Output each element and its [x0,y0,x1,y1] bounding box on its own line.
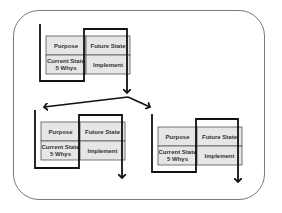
arrow-to-bottom-left [44,97,128,107]
arrow-to-bottom-right [128,97,150,107]
label-current-state: Current State [41,144,80,150]
label-purpose: Purpose [48,129,73,135]
block-top-table: Purpose Future State Current State 5 Why… [46,36,130,74]
label-5-whys: 5 Whys [167,156,189,162]
block-bottom-right-table: Purpose Future State Current State 5 Why… [158,127,242,165]
label-purpose: Purpose [54,43,79,49]
label-implement: Implement [87,148,117,154]
label-implement: Implement [204,153,234,159]
block-top: Purpose Future State Current State 5 Why… [40,24,130,93]
diagram-canvas: Purpose Future State Current State 5 Why… [0,0,282,213]
block-bottom-left-table: Purpose Future State Current State 5 Why… [41,122,125,160]
label-future-state: Future State [85,129,121,135]
label-current-state: Current State [158,149,197,155]
label-5-whys: 5 Whys [55,65,77,71]
block-bottom-right: Purpose Future State Current State 5 Why… [152,114,242,182]
branch-arrows [44,97,150,107]
label-future-state: Future State [90,43,126,49]
label-purpose: Purpose [165,134,190,140]
label-current-state: Current State [47,58,86,64]
label-5-whys: 5 Whys [50,151,72,157]
label-future-state: Future State [202,134,238,140]
label-implement: Implement [93,62,123,68]
block-bottom-left: Purpose Future State Current State 5 Why… [35,110,125,178]
